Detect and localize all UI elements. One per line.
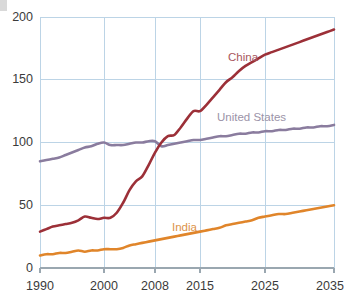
x-tick-label-2025: 2025 — [251, 279, 279, 293]
x-tick-label-2000: 2000 — [90, 279, 118, 293]
x-tick-label-2008: 2008 — [141, 279, 169, 293]
series-label-india: India — [172, 221, 198, 233]
y-tick-label-100: 100 — [12, 135, 33, 149]
y-tick-label-0: 0 — [26, 261, 33, 275]
line-chart: 200 150 100 50 0 1990 2000 2008 2015 202… — [0, 0, 349, 305]
series-line-united-states — [40, 125, 334, 161]
x-tick-label-2035: 2035 — [316, 279, 344, 293]
series-label-china: China — [228, 51, 259, 63]
y-tick-label-150: 150 — [12, 72, 33, 86]
x-axis-labels: 1990 2000 2008 2015 2025 2035 — [26, 279, 344, 293]
y-axis-labels: 200 150 100 50 0 — [12, 10, 33, 275]
y-tick-label-200: 200 — [12, 10, 33, 24]
series-label-united-states: United States — [217, 111, 286, 123]
series-line-china — [40, 30, 334, 232]
chart-container: 200 150 100 50 0 1990 2000 2008 2015 202… — [0, 0, 349, 305]
y-tick-label-50: 50 — [19, 198, 33, 212]
x-tickmarks — [40, 268, 334, 273]
x-tick-label-2015: 2015 — [186, 279, 214, 293]
x-tick-label-1990: 1990 — [26, 279, 54, 293]
